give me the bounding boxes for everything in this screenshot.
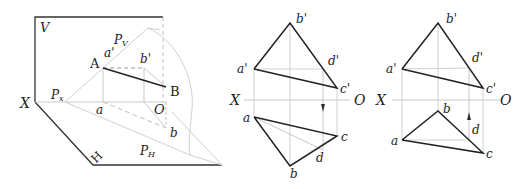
triangle-v-middle	[254, 23, 337, 88]
label-c-right: c	[486, 147, 493, 161]
label-B: B	[170, 84, 180, 99]
label-d-right: d	[472, 123, 480, 137]
label-x-right: X	[375, 92, 387, 108]
figure-right: b' a' d' c' X O b a d c	[375, 12, 512, 161]
label-a-right: a	[391, 134, 398, 148]
label-b: b	[170, 126, 178, 140]
line-ab	[103, 68, 166, 87]
projection-diagram: V X A a' b' B a O b PV Px PH H b' a' d' …	[0, 0, 529, 189]
label-o-right: O	[500, 92, 512, 108]
label-c-prime-right: c'	[486, 82, 496, 96]
label-b-prime: b'	[140, 52, 151, 66]
triangle-v-right	[402, 23, 483, 88]
label-o-middle: O	[354, 92, 366, 108]
label-pv: PV	[113, 33, 129, 48]
label-c-prime-middle: c'	[340, 82, 350, 96]
a-prime-d-prime-right	[402, 68, 469, 69]
triangle-h-right	[402, 111, 483, 153]
label-d-prime-middle: d'	[328, 54, 339, 68]
label-b-middle: b	[290, 167, 298, 181]
label-a-middle: a	[243, 111, 250, 125]
label-A: A	[89, 56, 100, 71]
label-a-prime-middle: a'	[237, 62, 247, 76]
a-to-d	[254, 117, 323, 150]
figure-middle: b' a' d' c' X O a c d b	[229, 12, 366, 181]
label-d-prime-right: d'	[472, 51, 483, 65]
h-plane-frame	[35, 102, 222, 165]
label-x-middle: X	[229, 92, 241, 108]
arrow-d-right	[467, 112, 471, 120]
label-v: V	[40, 20, 51, 35]
label-x: X	[19, 95, 31, 111]
label-px: Px	[50, 88, 64, 103]
label-a-prime-right: a'	[386, 62, 396, 76]
label-ph: PH	[139, 144, 156, 159]
label-b-prime-right: b'	[446, 12, 457, 26]
arrow-d-middle	[321, 104, 325, 112]
label-d-middle: d	[316, 151, 324, 165]
figure-left: V X A a' b' B a O b PV Px PH H	[19, 17, 222, 166]
label-c-middle: c	[341, 130, 348, 144]
label-a-prime: a'	[104, 46, 114, 60]
label-b-prime-middle: b'	[296, 12, 307, 26]
label-b-right: b	[443, 102, 451, 116]
label-a: a	[96, 103, 103, 117]
label-O: O	[154, 102, 165, 117]
triangle-h-middle	[254, 117, 337, 166]
